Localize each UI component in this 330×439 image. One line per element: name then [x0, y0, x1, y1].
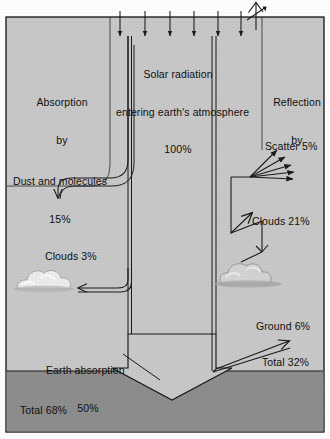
diagram-canvas: Solar radiation entering earth's atmosph… [0, 0, 330, 439]
clouds-absorption-label: Clouds 3% [45, 250, 97, 263]
absorption-heading-line1: Absorption [24, 96, 100, 109]
reflection-heading-line1: Reflection [268, 96, 326, 109]
clouds-reflection-label: Clouds 21% [252, 215, 310, 228]
solar-radiation-line1: Solar radiation [116, 68, 240, 81]
total-absorption-label: Total 68% [20, 404, 67, 417]
absorption-heading-line2: by [24, 134, 100, 147]
total-reflection-label: Total 32% [262, 356, 309, 369]
solar-radiation-line3: 100% [116, 143, 240, 156]
reflection-heading: Reflection by [268, 71, 326, 171]
earth-absorption-label: Earth absorption 50% [46, 339, 130, 439]
ground-reflection-label: Ground 6% [256, 320, 310, 333]
dust-molecules-line1: Dust and molecules [8, 175, 112, 188]
solar-radiation-line2: entering earth's atmosphere [116, 106, 240, 119]
solar-radiation-title: Solar radiation entering earth's atmosph… [116, 43, 240, 181]
earth-absorption-line1: Earth absorption [46, 364, 130, 377]
dust-molecules-line2: 15% [8, 213, 112, 226]
scatter-label: Scatter 5% [265, 140, 317, 153]
dust-molecules-label: Dust and molecules 15% [8, 150, 112, 250]
